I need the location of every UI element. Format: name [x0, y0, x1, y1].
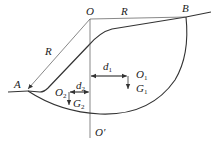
- label-r-left: R: [44, 45, 52, 57]
- label-o1: O1: [136, 68, 148, 82]
- label-g2: G2: [73, 97, 85, 111]
- label-g1: G1: [136, 82, 148, 96]
- label-d2: d2: [76, 79, 86, 93]
- label-a: A: [13, 78, 21, 90]
- radius-line-ob: [90, 17, 186, 19]
- ground-line-left: [8, 91, 28, 92]
- label-r-top: R: [120, 5, 128, 17]
- label-o-prime: O′: [95, 126, 106, 138]
- slope-surface: [28, 12, 211, 92]
- label-b: B: [182, 2, 189, 14]
- slope-stability-diagram: O R B R A O′ d1 O1 G1 O2 d2 G2: [0, 0, 219, 145]
- label-o2: O2: [55, 86, 67, 100]
- label-d1: d1: [103, 60, 113, 74]
- label-o: O: [86, 5, 94, 17]
